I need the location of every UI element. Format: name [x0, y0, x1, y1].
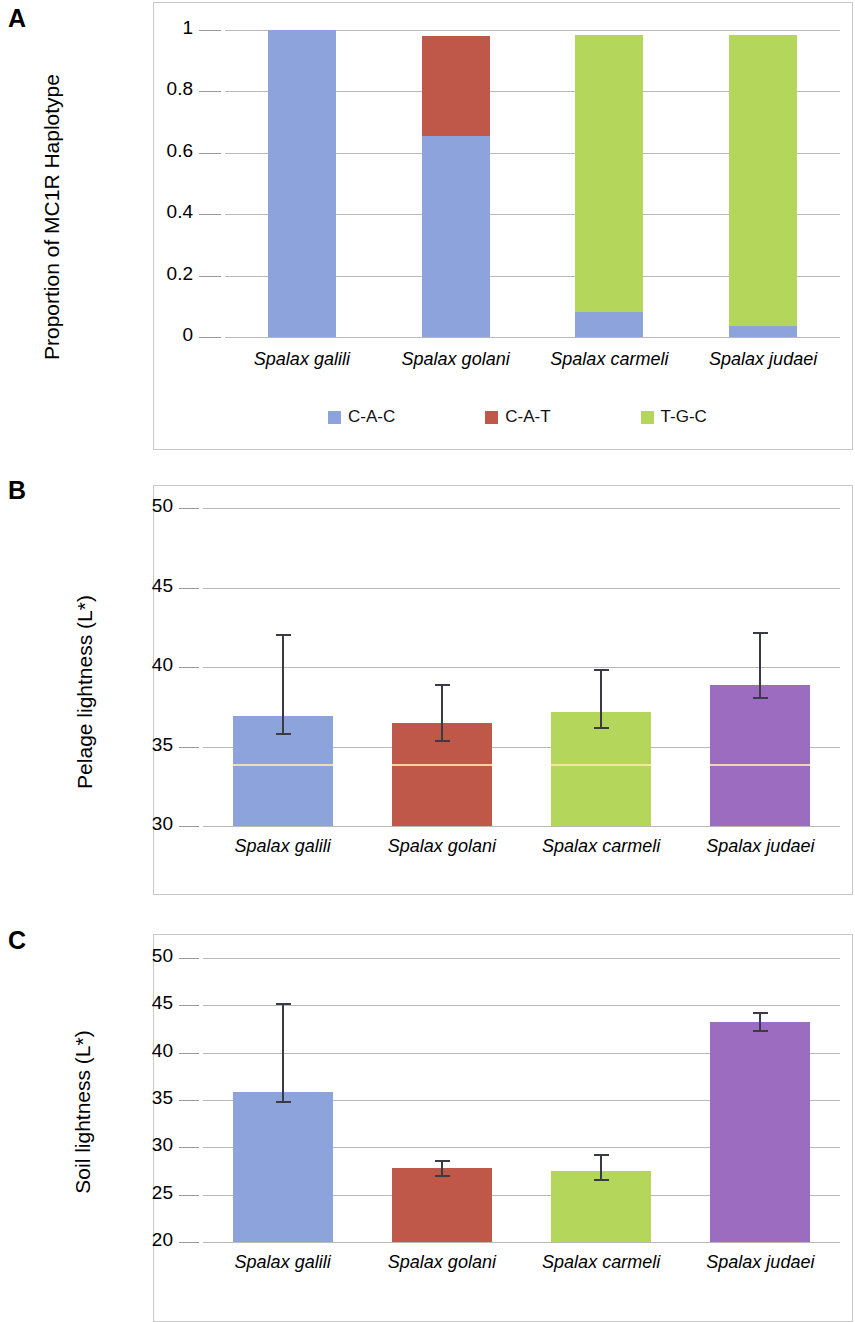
gridline — [203, 826, 840, 827]
bar-segment-t-g-c — [575, 35, 643, 313]
y-axis-tick-label: 1 — [147, 17, 193, 39]
legend-swatch — [641, 411, 654, 424]
category-label: Spalax carmeli — [522, 1252, 681, 1273]
category-label: Spalax galili — [203, 836, 362, 857]
error-bar-cap-top — [276, 634, 291, 636]
category-label: Spalax judaei — [681, 836, 840, 857]
error-bar-cap-top — [276, 1003, 291, 1005]
error-bar — [422, 1160, 462, 1177]
error-bar-cap-bottom — [753, 697, 768, 699]
bar — [551, 1171, 651, 1242]
legend-item: C-A-C — [328, 407, 395, 427]
error-bar — [263, 634, 303, 736]
category-label: Spalax galili — [203, 1252, 362, 1273]
panel-b-chart: 3035404550Spalax galiliSpalax golaniSpal… — [153, 485, 853, 895]
error-bar — [581, 669, 621, 729]
y-axis-tick-label: 45 — [139, 992, 173, 1014]
error-bar-cap-bottom — [276, 1101, 291, 1103]
error-bar-cap-top — [753, 1012, 768, 1014]
y-axis-tick-mark — [179, 1100, 199, 1101]
error-bar-stem — [600, 1154, 602, 1181]
error-bar — [740, 1012, 780, 1032]
panel-letter-b: B — [8, 478, 26, 503]
bar — [233, 1092, 333, 1242]
gridline — [203, 958, 840, 959]
y-axis-tick-label: 30 — [139, 813, 173, 835]
bar-segment-c-a-c — [268, 30, 336, 337]
legend-label: T-G-C — [661, 407, 707, 427]
y-axis-tick-mark — [179, 747, 199, 748]
error-bar-stem — [759, 632, 761, 699]
y-axis-tick-label: 50 — [139, 945, 173, 967]
y-axis-tick-label: 40 — [139, 654, 173, 676]
y-axis-tick-label: 50 — [139, 495, 173, 517]
bar-seam-line — [710, 764, 810, 766]
y-axis-tick-mark — [199, 337, 221, 338]
panel-b-plot-area: 3035404550Spalax galiliSpalax golaniSpal… — [203, 508, 840, 826]
error-bar-stem — [600, 669, 602, 729]
gridline — [203, 1242, 840, 1243]
panel-a-y-axis-title: Proportion of MC1R Haplotype — [40, 47, 64, 387]
y-axis-tick-label: 0.2 — [147, 263, 193, 285]
error-bar-stem — [282, 634, 284, 736]
bar — [729, 30, 797, 337]
y-axis-tick-mark — [199, 30, 221, 31]
category-label: Spalax golani — [379, 349, 533, 370]
y-axis-tick-mark — [179, 1242, 199, 1243]
error-bar-cap-top — [594, 669, 609, 671]
panel-letter-a: A — [8, 6, 26, 31]
y-axis-tick-label: 45 — [139, 575, 173, 597]
error-bar-cap-top — [435, 1160, 450, 1162]
bar — [268, 30, 336, 337]
y-axis-tick-label: 25 — [139, 1182, 173, 1204]
panel-c-y-axis-title: Soil lightness (L*) — [71, 997, 95, 1227]
y-axis-tick-mark — [179, 1147, 199, 1148]
y-axis-tick-label: 0.8 — [147, 78, 193, 100]
bar-segment-c-a-c — [575, 312, 643, 337]
legend-label: C-A-C — [348, 407, 395, 427]
gridline — [225, 337, 840, 338]
y-axis-tick-mark — [179, 1195, 199, 1196]
bar-segment-c-a-c — [729, 326, 797, 337]
bar-seam-line — [392, 764, 492, 766]
y-axis-tick-mark — [179, 958, 199, 959]
category-label: Spalax judaei — [681, 1252, 840, 1273]
category-label: Spalax carmeli — [533, 349, 687, 370]
y-axis-tick-mark — [179, 508, 199, 509]
panel-b-y-axis-title: Pelage lightness (L*) — [73, 567, 97, 817]
error-bar-cap-bottom — [276, 733, 291, 735]
y-axis-tick-label: 35 — [139, 734, 173, 756]
y-axis-tick-label: 0.4 — [147, 201, 193, 223]
y-axis-tick-mark — [179, 667, 199, 668]
category-label: Spalax galili — [225, 349, 379, 370]
error-bar-cap-bottom — [435, 1175, 450, 1177]
y-axis-tick-label: 40 — [139, 1040, 173, 1062]
error-bar — [422, 684, 462, 741]
error-bar — [740, 632, 780, 699]
error-bar-cap-top — [753, 632, 768, 634]
error-bar-cap-bottom — [594, 727, 609, 729]
y-axis-tick-mark — [199, 91, 221, 92]
panel-a-chart: 00.20.40.60.81Spalax galiliSpalax golani… — [153, 2, 853, 450]
y-axis-tick-label: 35 — [139, 1087, 173, 1109]
bar-seam-line — [551, 764, 651, 766]
y-axis-tick-mark — [199, 153, 221, 154]
error-bar-cap-top — [594, 1154, 609, 1156]
bar — [710, 1022, 810, 1242]
bar-segment-c-a-t — [422, 36, 490, 136]
gridline — [203, 508, 840, 509]
legend-label: C-A-T — [505, 407, 550, 427]
y-axis-tick-label: 0 — [147, 324, 193, 346]
y-axis-tick-label: 20 — [139, 1229, 173, 1251]
gridline — [203, 588, 840, 589]
y-axis-tick-mark — [179, 588, 199, 589]
category-label: Spalax golani — [362, 836, 521, 857]
y-axis-tick-label: 0.6 — [147, 140, 193, 162]
bar — [422, 30, 490, 337]
panel-c-chart: 20253035404550Spalax galiliSpalax golani… — [153, 934, 853, 1322]
bar-segment-c-a-c — [422, 136, 490, 337]
legend-item: T-G-C — [641, 407, 707, 427]
y-axis-tick-mark — [179, 1005, 199, 1006]
bar-segment-t-g-c — [729, 35, 797, 327]
bar — [392, 1168, 492, 1242]
